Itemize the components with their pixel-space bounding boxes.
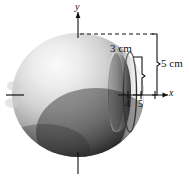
y-axis-label: y: [75, 2, 79, 12]
x-tick-label-4: 4: [125, 99, 130, 109]
dimension-label-5cm: 5 cm: [161, 58, 183, 69]
sphere-with-bored-hole-figure: [0, 0, 189, 178]
x-axis-label: x: [169, 88, 173, 98]
bracket-5cm: [152, 34, 160, 95]
dimension-label-3cm: 3 cm: [110, 43, 132, 54]
x-tick-label-5: 5: [138, 99, 143, 109]
figure-container: y x 4 5 3 cm 5 cm: [0, 0, 189, 178]
